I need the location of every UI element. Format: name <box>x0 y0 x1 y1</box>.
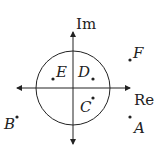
point-a-dot <box>128 115 131 118</box>
point-f-label: F <box>132 44 144 62</box>
point-f-dot <box>128 58 131 61</box>
point-d-label: D <box>77 63 90 81</box>
point-b-dot <box>15 115 18 118</box>
point-e-label: E <box>55 63 67 81</box>
point-a-label: A <box>132 119 145 137</box>
point-c-label: C <box>80 98 92 116</box>
points-layer: ABCDEF <box>3 44 145 137</box>
real-axis-label: Re <box>134 91 154 109</box>
argand-diagram: Im Re ABCDEF <box>0 0 161 149</box>
imag-axis-label: Im <box>76 15 96 33</box>
point-d-dot <box>91 77 94 80</box>
point-b-label: B <box>3 115 15 133</box>
point-e-dot <box>51 77 54 80</box>
point-c-dot <box>91 96 94 99</box>
